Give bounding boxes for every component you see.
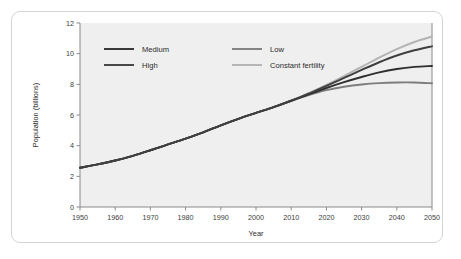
y-tick-label: 10 bbox=[66, 49, 74, 58]
y-tick-label: 0 bbox=[70, 203, 74, 212]
x-tick-label: 1980 bbox=[178, 213, 194, 222]
chart-svg: 0246810121950196019701980199020002010202… bbox=[12, 12, 444, 244]
x-axis-title: Year bbox=[249, 229, 264, 238]
legend-label: Low bbox=[270, 45, 284, 54]
x-tick-label: 2010 bbox=[283, 213, 299, 222]
y-tick-label: 8 bbox=[70, 80, 74, 89]
x-tick-label: 1950 bbox=[72, 213, 88, 222]
x-tick-label: 1990 bbox=[213, 213, 229, 222]
x-tick-label: 2030 bbox=[354, 213, 370, 222]
legend-label: Constant fertility bbox=[270, 61, 325, 70]
y-tick-label: 4 bbox=[70, 141, 74, 150]
y-tick-label: 2 bbox=[70, 172, 74, 181]
figure-card: 0246810121950196019701980199020002010202… bbox=[11, 11, 443, 243]
y-tick-label: 12 bbox=[66, 19, 74, 28]
x-tick-label: 2050 bbox=[424, 213, 440, 222]
population-projection-chart: 0246810121950196019701980199020002010202… bbox=[12, 12, 444, 244]
x-tick-label: 2020 bbox=[318, 213, 334, 222]
y-tick-label: 6 bbox=[70, 111, 74, 120]
legend-label: High bbox=[142, 61, 158, 70]
x-tick-label: 2000 bbox=[248, 213, 264, 222]
x-tick-label: 1970 bbox=[142, 213, 158, 222]
x-tick-label: 1960 bbox=[107, 213, 123, 222]
legend-label: Medium bbox=[142, 45, 169, 54]
x-tick-label: 2040 bbox=[389, 213, 405, 222]
y-axis-title: Population (billions) bbox=[31, 83, 40, 148]
plot-background bbox=[80, 23, 432, 207]
